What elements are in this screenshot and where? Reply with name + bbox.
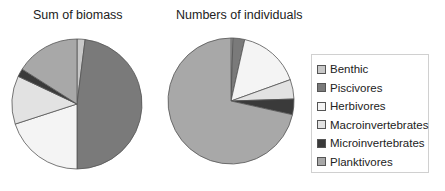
legend: Benthic Piscivores Herbivores Macroinver…: [311, 54, 429, 173]
swatch-icon: [317, 83, 326, 92]
swatch-icon: [317, 120, 326, 129]
swatch-icon: [317, 139, 326, 148]
pie-slice-piscivores: [77, 40, 142, 169]
legend-item-microinvertebrates: Microinvertebrates: [317, 134, 428, 153]
swatch-icon: [317, 157, 326, 166]
legend-item-macroinvertebrates: Macroinvertebrates: [317, 116, 428, 135]
pie-biomass: [12, 39, 142, 169]
legend-item-benthic: Benthic: [317, 60, 428, 79]
legend-item-planktivores: Planktivores: [317, 153, 428, 172]
legend-item-piscivores: Piscivores: [317, 79, 428, 98]
swatch-icon: [317, 102, 326, 111]
pie-individuals: [168, 38, 294, 164]
legend-item-herbivores: Herbivores: [317, 97, 428, 116]
swatch-icon: [317, 65, 326, 74]
